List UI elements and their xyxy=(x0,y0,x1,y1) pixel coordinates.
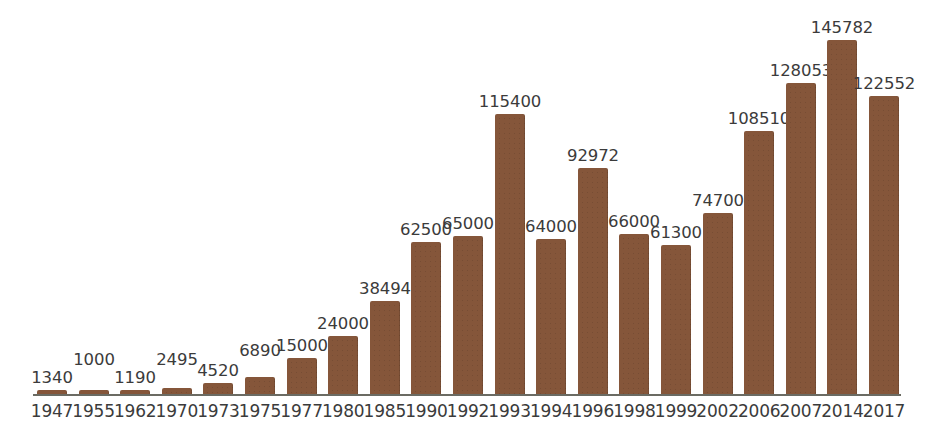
plot-area: 1340194710001955119019622495197045201973… xyxy=(0,0,944,443)
bar-group: 92972 xyxy=(578,168,608,394)
x-axis-tick-label: 2006 xyxy=(738,401,780,421)
x-axis-tick-label: 1994 xyxy=(530,401,572,421)
x-axis-tick-label: 2002 xyxy=(696,401,738,421)
bar xyxy=(245,377,275,394)
bar xyxy=(328,336,358,394)
bar-value-label: 2495 xyxy=(156,350,198,369)
bar-group: 115400 xyxy=(495,114,525,394)
bar-value-label: 145782 xyxy=(811,18,873,37)
bar-value-label: 6890 xyxy=(239,341,281,360)
bar-group: 66000 xyxy=(619,234,649,394)
bar-group: 108510 xyxy=(744,131,774,394)
bar xyxy=(203,383,233,394)
bar xyxy=(827,40,857,394)
bar xyxy=(120,390,150,394)
x-axis-tick-label: 1975 xyxy=(239,401,281,421)
bar-group: 61300 xyxy=(661,245,691,394)
bar xyxy=(786,83,816,394)
bar-value-label: 74700 xyxy=(692,191,744,210)
bar-group: 145782 xyxy=(827,40,857,394)
x-axis-tick-label: 2014 xyxy=(821,401,863,421)
x-axis-tick-label: 1999 xyxy=(655,401,697,421)
bar xyxy=(370,301,400,394)
bar-value-label: 38494 xyxy=(359,279,411,298)
bar-value-label: 1340 xyxy=(31,368,73,387)
bar xyxy=(287,358,317,394)
x-axis-tick-label: 1998 xyxy=(613,401,655,421)
bar-value-label: 92972 xyxy=(567,146,619,165)
bar-value-label: 24000 xyxy=(317,314,369,333)
x-axis-tick-label: 1980 xyxy=(322,401,364,421)
bar-group: 128053 xyxy=(786,83,816,394)
bar xyxy=(79,390,109,394)
bar-group: 74700 xyxy=(703,213,733,394)
bar-group: 2495 xyxy=(162,388,192,394)
bar-group: 38494 xyxy=(370,301,400,394)
bar-value-label: 122552 xyxy=(853,74,915,93)
x-axis-tick-label: 1955 xyxy=(72,401,114,421)
bar-value-label: 1190 xyxy=(114,368,156,387)
x-axis-line xyxy=(33,394,901,396)
bar xyxy=(869,96,899,394)
x-axis-tick-label: 1947 xyxy=(31,401,73,421)
bar xyxy=(536,239,566,394)
bar-group: 62500 xyxy=(411,242,441,394)
bar-value-label: 115400 xyxy=(479,92,541,111)
bar xyxy=(619,234,649,394)
bar-group: 4520 xyxy=(203,383,233,394)
x-axis-tick-label: 1992 xyxy=(447,401,489,421)
x-axis-tick-label: 1985 xyxy=(364,401,406,421)
bar-value-label: 61300 xyxy=(650,223,702,242)
x-axis-tick-label: 1993 xyxy=(488,401,530,421)
bar xyxy=(703,213,733,394)
bar-value-label: 65000 xyxy=(442,214,494,233)
bar-value-label: 64000 xyxy=(525,217,577,236)
bar xyxy=(661,245,691,394)
bar xyxy=(578,168,608,394)
bar xyxy=(495,114,525,394)
bar-group: 6890 xyxy=(245,377,275,394)
x-axis-tick-label: 1962 xyxy=(114,401,156,421)
bar-group: 122552 xyxy=(869,96,899,394)
bar xyxy=(411,242,441,394)
x-axis-tick-label: 1970 xyxy=(156,401,198,421)
x-axis-tick-label: 1996 xyxy=(572,401,614,421)
bar-group: 24000 xyxy=(328,336,358,394)
x-axis-tick-label: 1990 xyxy=(405,401,447,421)
bar xyxy=(453,236,483,394)
bar-value-label: 4520 xyxy=(197,361,239,380)
bar xyxy=(37,390,67,394)
x-axis-tick-label: 2017 xyxy=(863,401,905,421)
bar xyxy=(162,388,192,394)
bar-chart: 1340194710001955119019622495197045201973… xyxy=(0,0,944,443)
bar-value-label: 1000 xyxy=(73,350,115,369)
x-axis-tick-label: 2007 xyxy=(780,401,822,421)
bar-group: 64000 xyxy=(536,239,566,394)
x-axis-tick-label: 1973 xyxy=(197,401,239,421)
bar xyxy=(744,131,774,394)
x-axis-tick-label: 1977 xyxy=(280,401,322,421)
bar-group: 15000 xyxy=(287,358,317,394)
bar-group: 1340 xyxy=(37,390,67,394)
bar-group: 1190 xyxy=(120,390,150,394)
bar-value-label: 128053 xyxy=(770,61,832,80)
bar-group: 65000 xyxy=(453,236,483,394)
bar-value-label: 15000 xyxy=(276,336,328,355)
bar-group: 1000 xyxy=(79,390,109,394)
bar-value-label: 108510 xyxy=(728,109,790,128)
